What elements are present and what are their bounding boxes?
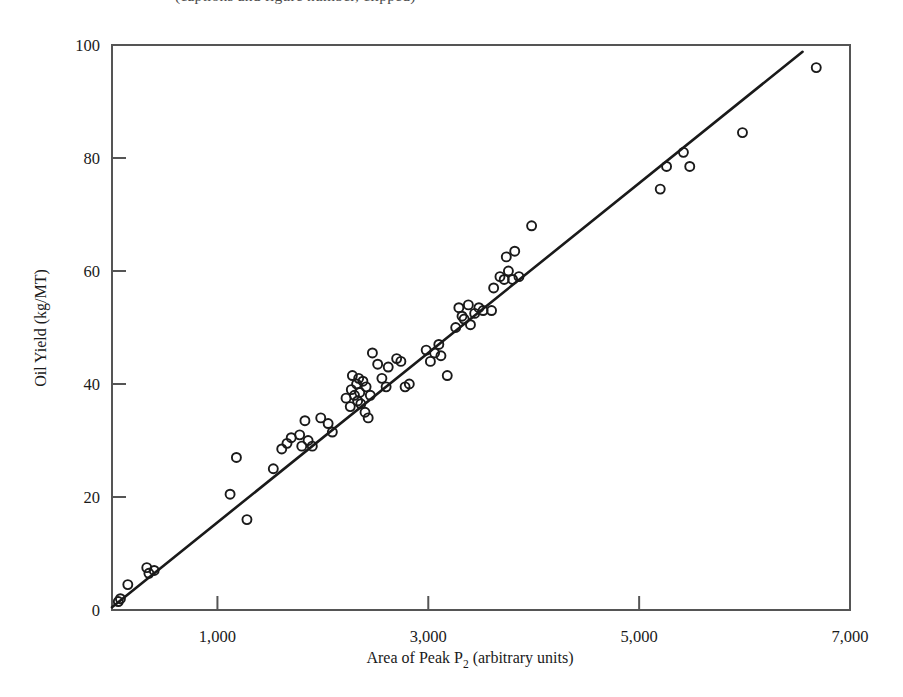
y-tick-label: 60: [84, 262, 101, 281]
y-tick-label: 80: [84, 149, 101, 168]
figure-container: (captions and figure number, clipped) 02…: [0, 0, 903, 697]
x-axis-title-suffix: (arbitrary units): [469, 649, 574, 667]
clipped-caption-strip: (captions and figure number, clipped): [0, 0, 903, 14]
clipped-caption-text: (captions and figure number, clipped): [175, 0, 416, 5]
y-tick-label: 40: [84, 375, 101, 394]
y-tick-label: 0: [92, 601, 100, 620]
y-tick-label: 100: [75, 36, 100, 55]
x-tick-label: 7,000: [831, 627, 868, 646]
y-tick-label: 20: [84, 488, 101, 507]
scatter-plot: 020406080100 1,0003,0005,0007,000 Oil Yi…: [0, 0, 903, 697]
plot-background: [0, 0, 903, 697]
x-tick-label: 1,000: [199, 627, 236, 646]
x-tick-label: 5,000: [621, 627, 658, 646]
x-axis-title-prefix: Area of Peak P: [366, 649, 463, 666]
x-tick-label: 3,000: [410, 627, 447, 646]
y-axis-title: Oil Yield (kg/MT): [32, 269, 50, 387]
